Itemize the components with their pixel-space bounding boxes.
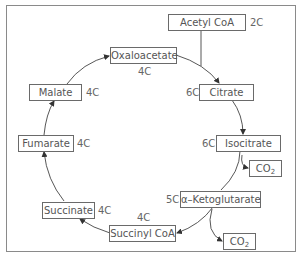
node-label: Succinate [44, 205, 93, 216]
node-oxaloacetate: Oxaloacetate [110, 47, 177, 64]
node-label: Acetyl CoA [180, 17, 234, 28]
node-citrate: Citrate [199, 84, 254, 101]
arrow-malate-oxaloacetate [67, 56, 109, 84]
node-label: Citrate [210, 87, 244, 98]
carbon-count-citrate: 6C [186, 87, 199, 99]
arrow-isocitrate-akg [221, 151, 240, 190]
carbon-count-alpha-ketoglutarate: 5C [166, 194, 179, 206]
node-label: Succinyl CoA [110, 228, 175, 239]
carbon-count-malate: 4C [86, 87, 99, 99]
carbon-count-succinyl-coa: 4C [137, 212, 150, 224]
byproduct-co2-1: CO2 [249, 160, 282, 177]
carbon-count-fumarate: 4C [77, 138, 90, 150]
arrow-akg-co2 [210, 209, 222, 241]
node-fumarate: Fumarate [18, 135, 74, 152]
co2-label: CO [230, 236, 245, 247]
co2-subscript: 2 [245, 241, 249, 249]
carbon-count-succinate: 4C [98, 205, 111, 217]
node-isocitrate: Isocitrate [216, 135, 281, 152]
byproduct-co2-2: CO2 [223, 233, 256, 250]
carbon-count-acetyl-coa: 2C [250, 17, 263, 29]
carbon-count-oxaloacetate: 4C [138, 66, 151, 78]
node-acetyl-coa: Acetyl CoA [168, 14, 246, 31]
arrow-isocitrate-co2 [242, 155, 248, 168]
node-label: Fumarate [22, 138, 70, 149]
node-label: Oxaloacetate [111, 50, 178, 61]
arrow-succinylcoa-succinate [80, 219, 110, 233]
node-succinate: Succinate [42, 202, 95, 219]
carbon-count-isocitrate: 6C [202, 138, 215, 150]
node-malate: Malate [29, 84, 82, 101]
node-succinyl-coa: Succinyl CoA [109, 225, 176, 242]
arrow-akg-succinylcoa [177, 207, 213, 233]
arrow-succinate-fumarate [44, 152, 64, 201]
node-label: α–Ketoglutarate [181, 194, 261, 205]
arrow-fumarate-malate [44, 101, 54, 135]
arrow-citrate-isocitrate [232, 100, 243, 134]
node-alpha-ketoglutarate: α–Ketoglutarate [180, 191, 261, 208]
node-label: Isocitrate [225, 138, 272, 149]
arrow-oxaloacetate-citrate [176, 55, 219, 83]
co2-label: CO [256, 163, 271, 174]
node-label: Malate [39, 87, 73, 98]
co2-subscript: 2 [271, 168, 275, 176]
